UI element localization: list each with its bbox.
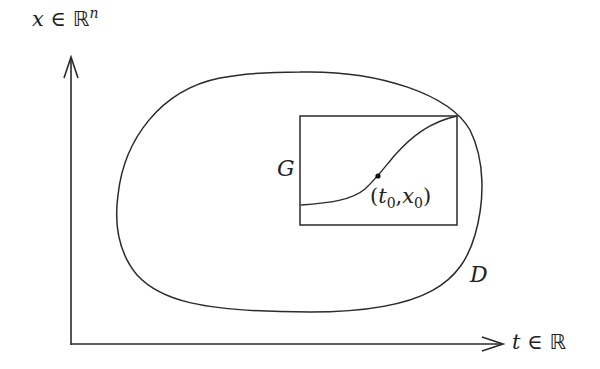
point-label-open: ( [370, 184, 378, 208]
y-axis-var: x [32, 7, 44, 31]
point-label-t: t [378, 184, 386, 208]
point-label-x-sub: 0 [414, 195, 423, 211]
point-label-close: ) [423, 184, 431, 208]
x-axis-label: t ∈ ℝ [512, 330, 566, 354]
y-axis [64, 57, 78, 345]
x-axis [71, 337, 503, 351]
point-label-x: x [402, 184, 414, 208]
y-axis-exp: n [89, 5, 98, 21]
x-axis-rel: ∈ [527, 330, 543, 354]
diagram-canvas [0, 0, 600, 369]
initial-point-marker [375, 173, 380, 178]
box-g-label: G [277, 156, 295, 181]
y-axis-rel: ∈ [51, 7, 67, 31]
point-label: (t0,x0) [370, 184, 431, 211]
point-label-t-sub: 0 [387, 195, 396, 211]
region-d-label: D [470, 262, 488, 287]
x-axis-var: t [512, 330, 520, 354]
x-axis-set: ℝ [549, 330, 566, 354]
y-axis-set: ℝ [73, 7, 90, 31]
y-axis-label: x ∈ ℝn [32, 5, 98, 31]
